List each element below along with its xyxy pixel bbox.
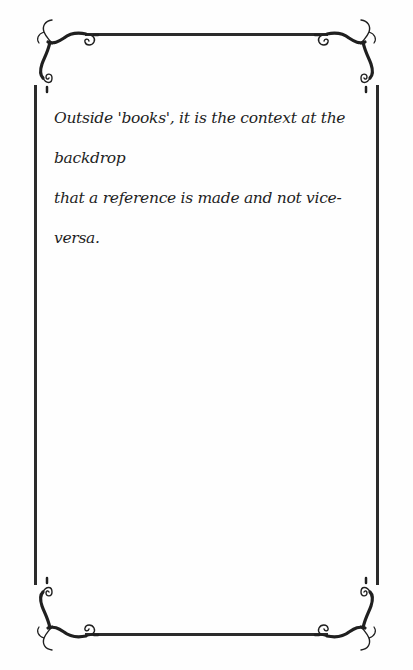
corner-flourish-bottom-right-icon [309,568,399,658]
frame-bottom-border [85,633,328,636]
corner-flourish-top-left-icon [14,12,104,102]
quote-text: Outside 'books', it is the context at th… [54,98,374,258]
frame-top-border [85,33,328,36]
corner-flourish-top-right-icon [309,12,399,102]
page: Outside 'books', it is the context at th… [0,0,413,670]
frame-right-border [376,85,379,585]
quote-line-2: that a reference is made and not vice-ve… [54,178,374,258]
quote-line-1: Outside 'books', it is the context at th… [54,98,374,178]
corner-flourish-bottom-left-icon [14,568,104,658]
frame-left-border [34,85,37,585]
